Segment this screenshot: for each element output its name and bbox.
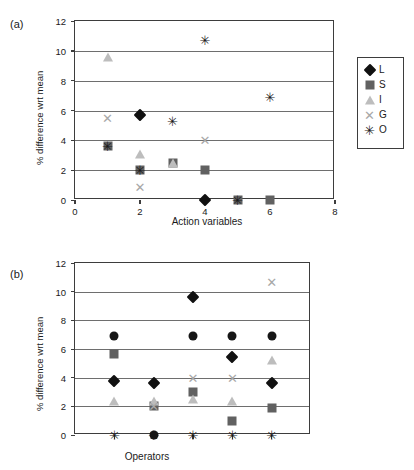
y-axis-tick-label: 6 <box>44 105 66 116</box>
legend-symbol-x-icon: ✕ <box>363 108 376 121</box>
y-axis-tick <box>71 21 75 22</box>
y-axis-tick <box>71 140 75 141</box>
legend-item-l: L <box>363 62 399 77</box>
legend-symbol-diamond-icon <box>363 63 376 76</box>
marker-x: ✕ <box>364 108 375 121</box>
y-axis-tick <box>71 349 75 350</box>
marker-triangle <box>365 95 375 104</box>
y-axis-tick <box>71 435 75 436</box>
legend-label: S <box>379 79 386 90</box>
y-axis-tick <box>71 110 75 111</box>
panel-b-x-axis-title: Operators <box>0 451 354 462</box>
marker-triangle <box>267 356 277 365</box>
y-axis-tick <box>71 170 75 171</box>
y-axis-tick <box>71 320 75 321</box>
y-axis-tick-label: 2 <box>44 401 66 412</box>
x-axis-tick <box>334 200 335 204</box>
legend-symbol-square-icon <box>363 78 376 91</box>
legend-label: G <box>379 109 387 120</box>
marker-circle <box>267 332 276 341</box>
panel-a-label: (a) <box>10 18 23 30</box>
y-axis-tick-label: 2 <box>44 165 66 176</box>
marker-circle <box>149 431 158 440</box>
marker-square <box>267 403 276 412</box>
marker-asterisk: ✳ <box>364 123 375 136</box>
marker-asterisk: ✳ <box>232 194 243 207</box>
marker-square <box>201 166 210 175</box>
marker-asterisk: ✳ <box>265 91 276 104</box>
legend-symbol-asterisk-icon: ✳ <box>363 123 376 136</box>
y-axis-tick <box>71 263 75 264</box>
marker-square <box>228 416 237 425</box>
marker-x: ✕ <box>227 371 238 384</box>
gridline-horizontal <box>75 81 333 82</box>
gridline-horizontal <box>75 320 309 321</box>
legend-item-g: ✕G <box>363 107 399 122</box>
marker-asterisk: ✳ <box>109 429 120 442</box>
y-axis-tick-label: 10 <box>44 286 66 297</box>
legend-label: L <box>379 64 385 75</box>
y-axis-tick-label: 12 <box>44 16 66 27</box>
legend-label: O <box>379 124 387 135</box>
marker-diamond <box>108 374 121 387</box>
marker-triangle <box>168 158 178 167</box>
gridline-horizontal <box>75 51 333 52</box>
marker-circle <box>110 332 119 341</box>
marker-triangle <box>227 396 237 405</box>
panel-b-plot-area: 024681012✕✕✕✕✳✳✳✳✳ <box>74 262 310 434</box>
marker-x: ✕ <box>188 371 199 384</box>
panel-b-y-axis-title: % difference wrt mean <box>34 317 45 411</box>
y-axis-tick <box>71 50 75 51</box>
panel-a-legend: LSI✕G✳O <box>357 57 404 149</box>
marker-triangle <box>188 395 198 404</box>
marker-diamond <box>226 351 239 364</box>
y-axis-tick <box>71 406 75 407</box>
marker-triangle <box>109 396 119 405</box>
y-axis-tick <box>71 377 75 378</box>
y-axis-tick <box>71 80 75 81</box>
marker-diamond <box>363 63 376 76</box>
y-axis-tick-label: 12 <box>44 258 66 269</box>
marker-asterisk: ✳ <box>102 139 113 152</box>
y-axis-tick-label: 4 <box>44 135 66 146</box>
legend-item-i: I <box>363 92 399 107</box>
marker-square <box>266 196 275 205</box>
y-axis-tick-label: 0 <box>44 195 66 206</box>
y-axis-tick-label: 8 <box>44 315 66 326</box>
legend-symbol-triangle-icon <box>363 93 376 106</box>
marker-asterisk: ✳ <box>266 429 277 442</box>
marker-x: ✕ <box>148 400 159 413</box>
chart-panel-b: (b) % difference wrt mean 024681012✕✕✕✕✳… <box>0 248 414 470</box>
marker-asterisk: ✳ <box>167 114 178 127</box>
legend-item-s: S <box>363 77 399 92</box>
marker-diamond <box>199 194 212 207</box>
chart-panel-a: (a) % difference wrt mean 02468101202468… <box>0 0 414 235</box>
marker-square <box>110 350 119 359</box>
x-axis-tick <box>139 200 140 204</box>
panel-b-label: (b) <box>10 268 23 280</box>
marker-circle <box>228 332 237 341</box>
marker-asterisk: ✳ <box>200 34 211 47</box>
y-axis-tick-label: 4 <box>44 372 66 383</box>
legend-item-o: ✳O <box>363 122 399 137</box>
marker-asterisk: ✳ <box>227 429 238 442</box>
y-axis-tick-label: 10 <box>44 45 66 56</box>
marker-square <box>365 80 374 89</box>
marker-x: ✕ <box>200 134 211 147</box>
y-axis-tick-label: 8 <box>44 75 66 86</box>
marker-x: ✕ <box>266 275 277 288</box>
marker-x: ✕ <box>135 180 146 193</box>
gridline-horizontal <box>75 111 333 112</box>
y-axis-tick-label: 6 <box>44 344 66 355</box>
panel-a-plot-area: 02468101202468✕✕✕✳✳✳✳✳✳ <box>74 20 334 199</box>
marker-triangle <box>135 149 145 158</box>
y-axis-tick <box>71 291 75 292</box>
marker-triangle <box>103 52 113 61</box>
panel-a-x-axis-title: Action variables <box>0 216 414 227</box>
marker-circle <box>189 332 198 341</box>
marker-asterisk: ✳ <box>135 164 146 177</box>
y-axis-tick-label: 0 <box>44 430 66 441</box>
legend-label: I <box>379 94 382 105</box>
figure-root: (a) % difference wrt mean 02468101202468… <box>0 0 414 470</box>
x-axis-tick <box>74 200 75 204</box>
